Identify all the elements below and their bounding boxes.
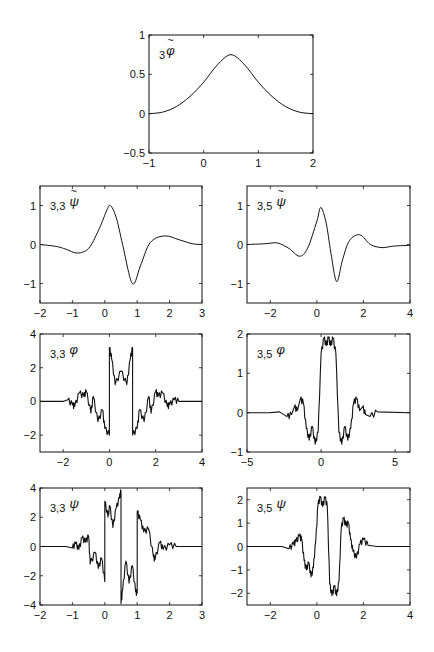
y-tick-label: 4 <box>30 482 36 494</box>
y-tick-label: 2 <box>237 328 243 340</box>
x-tick-label: 4 <box>199 456 205 468</box>
y-tick-label: −1 <box>23 278 36 290</box>
y-tick-label: 2 <box>30 362 36 374</box>
subplot-psi_35: −2024−2−10123,5ψ <box>230 488 413 621</box>
label-prefix: 3,3 <box>50 348 65 360</box>
tilde-mark: ~ <box>278 185 284 197</box>
x-tick-label: 1 <box>134 609 140 621</box>
x-tick-label: −2 <box>57 456 70 468</box>
y-tick-label: 0 <box>139 108 145 120</box>
label-prefix: 3,3 <box>50 200 65 212</box>
subplot-psi_tilde_35: −2024−1013,5ψ~ <box>230 185 413 319</box>
y-tick-label: −4 <box>23 599 36 611</box>
x-tick-label: 1 <box>255 157 261 169</box>
label-symbol: ψ <box>70 496 80 511</box>
y-tick-label: 0.5 <box>130 68 145 80</box>
x-tick-label: −1 <box>66 307 79 319</box>
subplot-phi_35: −505−10123,5φ <box>230 328 410 468</box>
y-tick-label: 0 <box>237 407 243 419</box>
y-tick-label: −0.5 <box>123 147 145 159</box>
x-tick-label: 4 <box>407 307 413 319</box>
tilde-mark: ~ <box>71 185 77 197</box>
y-tick-label: 0 <box>30 541 36 553</box>
subplot-psi_tilde_33: −2−10123−1013,3ψ~ <box>23 185 205 319</box>
y-tick-label: −1 <box>230 564 243 576</box>
y-tick-label: 0 <box>30 395 36 407</box>
x-tick-label: 3 <box>199 609 205 621</box>
x-tick-label: 2 <box>360 307 366 319</box>
label-prefix: 3,5 <box>257 348 272 360</box>
y-tick-label: 1 <box>139 29 145 41</box>
y-tick-label: −1 <box>230 446 243 458</box>
y-tick-label: 1 <box>30 200 36 212</box>
x-tick-label: −2 <box>264 609 277 621</box>
subplot-label: 3,3ψ <box>50 496 80 514</box>
x-tick-label: −2 <box>264 307 277 319</box>
label-symbol: φ <box>277 342 286 357</box>
x-tick-label: 4 <box>407 609 413 621</box>
x-tick-label: 0 <box>314 307 320 319</box>
subplot-label: 3,3ψ~ <box>50 185 80 212</box>
subplot-phi_33: −2024−20243,3φ <box>23 328 205 468</box>
y-tick-label: −2 <box>230 587 243 599</box>
subplot-phi_tilde_3: −1012−0.500.513φ~ <box>123 29 316 169</box>
label-prefix: 3,3 <box>50 502 65 514</box>
x-tick-label: −2 <box>34 307 47 319</box>
x-tick-label: 1 <box>134 307 140 319</box>
subplot-label: 3,5φ <box>257 342 286 360</box>
y-tick-label: 1 <box>237 367 243 379</box>
x-tick-label: 0 <box>314 609 320 621</box>
y-tick-label: −2 <box>23 570 36 582</box>
label-symbol: ψ <box>277 496 287 511</box>
y-tick-label: −2 <box>23 429 36 441</box>
y-tick-label: 0 <box>237 239 243 251</box>
subplot-label: 3φ~ <box>159 34 175 61</box>
x-tick-label: 0 <box>102 307 108 319</box>
x-tick-label: 0 <box>106 456 112 468</box>
y-tick-label: 0 <box>237 541 243 553</box>
label-prefix: 3,5 <box>257 502 272 514</box>
y-tick-label: 1 <box>237 517 243 529</box>
subplot-psi_33: −2−10123−4−20243,3ψ <box>23 482 205 621</box>
data-line <box>247 207 410 281</box>
y-tick-label: 1 <box>237 200 243 212</box>
data-line <box>149 55 313 114</box>
subplot-label: 3,5ψ <box>257 496 287 514</box>
label-symbol: φ <box>70 342 79 357</box>
x-tick-label: 2 <box>167 307 173 319</box>
y-tick-label: 4 <box>30 328 36 340</box>
subplot-label: 3,5ψ~ <box>257 185 287 212</box>
label-prefix: 3 <box>159 49 165 61</box>
data-line <box>40 348 202 436</box>
tilde-mark: ~ <box>167 34 173 46</box>
subplot-label: 3,3φ <box>50 342 79 360</box>
figure: −1012−0.500.513φ~−2−10123−1013,3ψ~−2024−… <box>0 0 434 652</box>
x-tick-label: 5 <box>392 456 398 468</box>
x-tick-label: 2 <box>167 609 173 621</box>
x-tick-label: −1 <box>66 609 79 621</box>
x-tick-label: 0 <box>201 157 207 169</box>
data-line <box>40 205 202 284</box>
x-tick-label: 3 <box>199 307 205 319</box>
x-tick-label: 2 <box>360 609 366 621</box>
x-tick-label: 2 <box>310 157 316 169</box>
y-tick-label: 2 <box>30 511 36 523</box>
x-tick-label: 0 <box>318 456 324 468</box>
y-tick-label: −1 <box>230 278 243 290</box>
x-tick-label: 2 <box>153 456 159 468</box>
y-tick-label: 0 <box>30 239 36 251</box>
x-tick-label: 0 <box>102 609 108 621</box>
y-tick-label: 2 <box>237 494 243 506</box>
label-prefix: 3,5 <box>257 200 272 212</box>
